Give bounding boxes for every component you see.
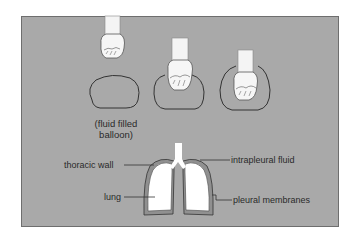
balloon-caption-line2: balloon)	[76, 129, 156, 140]
lungs-diagram	[144, 143, 213, 215]
hand-icon	[234, 50, 258, 100]
balloon-caption: (fluid filled balloon)	[76, 118, 156, 140]
balloon-round	[90, 75, 139, 108]
diagram-artwork	[0, 0, 359, 244]
label-intrapleural-fluid: intrapleural fluid	[231, 155, 295, 165]
hand-icon	[168, 38, 193, 90]
label-lung: lung	[104, 192, 121, 202]
leader-line-pleural-membranes	[212, 195, 232, 200]
hand-icon	[101, 16, 125, 58]
label-pleural-membranes: pleural membranes	[233, 195, 310, 205]
balloon-caption-line1: (fluid filled	[76, 118, 156, 129]
label-thoracic-wall: thoracic wall	[64, 160, 114, 170]
